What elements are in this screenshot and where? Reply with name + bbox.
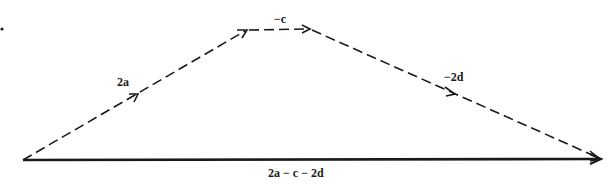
vector-minus-c: −c bbox=[249, 12, 310, 33]
marker-dot bbox=[0, 27, 3, 30]
vector-2a: 2a bbox=[23, 30, 247, 160]
label-minus-c: −c bbox=[274, 12, 287, 26]
vector-resultant: 2a − c − 2d bbox=[23, 154, 601, 180]
label-2a: 2a bbox=[117, 75, 129, 89]
label-minus-2d: −2d bbox=[444, 70, 464, 84]
label-resultant: 2a − c − 2d bbox=[268, 166, 324, 180]
vector-diagram: 2a −c −2d 2a − c − 2d bbox=[0, 0, 614, 186]
vector-minus-2d: −2d bbox=[312, 30, 600, 161]
